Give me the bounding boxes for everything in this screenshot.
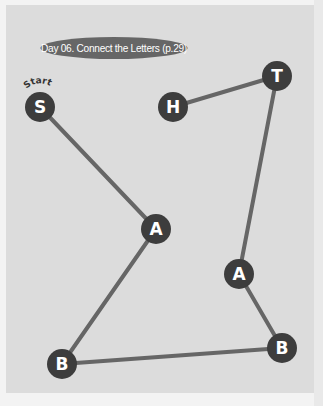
node-letter: B <box>276 338 289 358</box>
connector-line-a1-b1 <box>62 229 156 364</box>
connect-letters-diagram: SABBATH Start <box>0 0 323 406</box>
letter-node-a1[interactable]: A <box>141 214 171 244</box>
letter-node-b1[interactable]: B <box>47 349 77 379</box>
node-letter: T <box>271 66 283 86</box>
node-letter: B <box>56 354 69 374</box>
connector-line-s-a1 <box>40 107 156 229</box>
start-label: Start <box>22 75 55 90</box>
letter-node-b2[interactable]: B <box>267 333 297 363</box>
connector-line-b1-b2 <box>62 348 282 364</box>
letter-node-t[interactable]: T <box>262 61 292 91</box>
node-letter: H <box>166 97 180 117</box>
node-letter: A <box>232 264 246 284</box>
node-letter: A <box>149 219 163 239</box>
connector-line-t-h <box>173 76 277 107</box>
title-pill: Day 06. Connect the Letters (p.29) <box>40 37 187 59</box>
letter-node-s[interactable]: S <box>25 92 55 122</box>
letter-node-h[interactable]: H <box>158 92 188 122</box>
letter-node-a2[interactable]: A <box>224 259 254 289</box>
node-letter: S <box>34 97 46 117</box>
connector-line-a2-t <box>239 76 277 274</box>
